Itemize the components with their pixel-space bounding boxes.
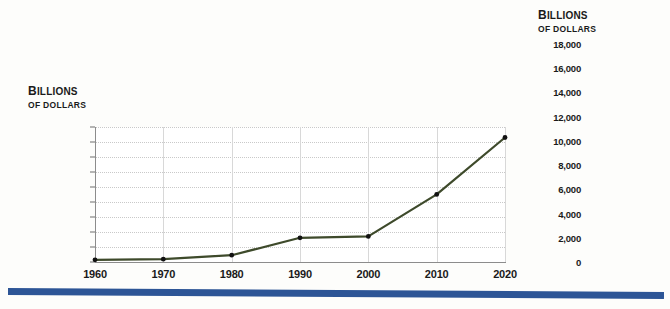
- main-series-svg: [95, 127, 506, 263]
- y-tick-label: 18,000: [553, 39, 581, 50]
- data-point: [366, 234, 371, 239]
- inset-y-axis-title: BILLIONS OF DOLLARS: [538, 8, 596, 35]
- x-tick-label: 1990: [288, 268, 312, 280]
- main-y-axis-title-line1: ILLIONS: [37, 86, 78, 97]
- y-tick-label: 12,000: [553, 111, 581, 122]
- y-tick-label: 6,000: [558, 184, 581, 195]
- inset-y-axis-title-line2: OF DOLLARS: [538, 24, 596, 35]
- y-tick-label: 8,000: [558, 160, 581, 171]
- y-tick-label: 2,000: [558, 232, 581, 243]
- main-y-axis-title-line2: OF DOLLARS: [28, 100, 86, 111]
- data-point: [161, 257, 166, 262]
- chart-canvas: BILLIONS OF DOLLARS 02,0004,0006,0008,00…: [0, 0, 670, 309]
- x-tick-label: 1980: [220, 268, 244, 280]
- x-tick-label: 1960: [83, 268, 107, 280]
- y-tick-label: 4,000: [558, 208, 581, 219]
- y-tick-label: 14,000: [553, 87, 581, 98]
- data-point: [229, 253, 234, 258]
- x-tick-label: 2000: [356, 268, 380, 280]
- main-y-axis-title: BILLIONS OF DOLLARS: [28, 84, 86, 111]
- inset-y-axis-title-line1: ILLIONS: [547, 10, 588, 21]
- data-point: [503, 135, 508, 140]
- x-tick-label: 2010: [425, 268, 449, 280]
- y-tick-label: 16,000: [553, 63, 581, 74]
- inset-line-chart: BILLIONS OF DOLLARS 02,0004,0006,0008,00…: [530, 0, 670, 309]
- x-tick-label: 1970: [151, 268, 175, 280]
- data-point: [298, 235, 303, 240]
- data-point: [93, 257, 98, 262]
- y-tick-label: 10,000: [553, 135, 581, 146]
- data-point: [434, 192, 439, 197]
- y-tick-label: 0: [576, 257, 581, 268]
- main-line-chart: BILLIONS OF DOLLARS 02,0004,0006,0008,00…: [0, 0, 530, 309]
- x-tick-label: 2020: [493, 268, 517, 280]
